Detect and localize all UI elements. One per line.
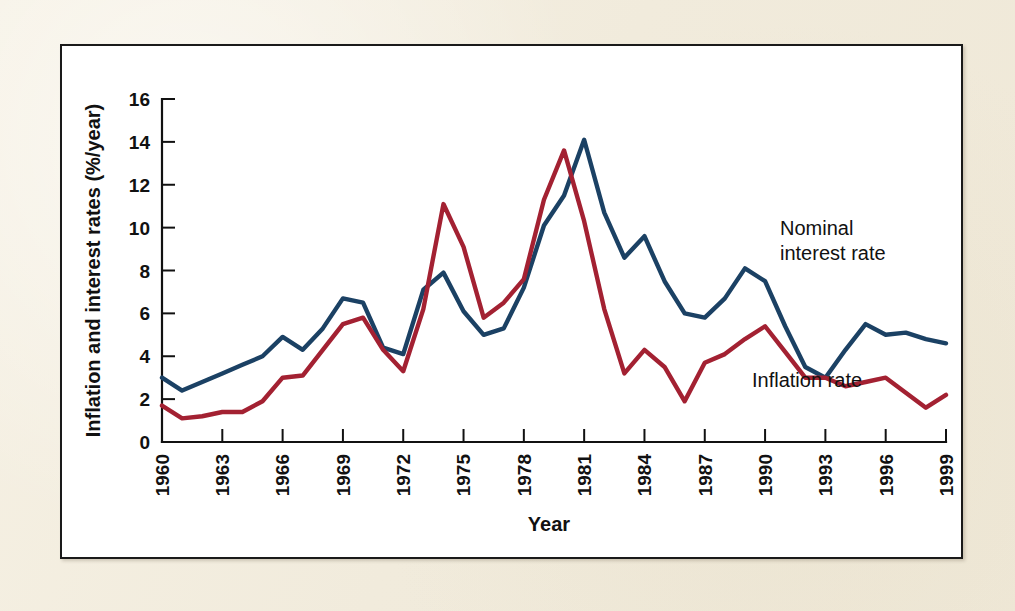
y-tick-label: 6 xyxy=(139,303,150,324)
x-tick-label: 1975 xyxy=(453,454,474,497)
x-tick-label: 1987 xyxy=(695,454,716,496)
y-axis-title: Inflation and interest rates (%/year) xyxy=(82,104,104,437)
y-tick-label: 16 xyxy=(129,89,150,110)
y-tick-label: 10 xyxy=(129,218,150,239)
series-annotations-group: Nominal interest rate Inflation rate xyxy=(752,217,886,391)
y-tick-label: 14 xyxy=(129,132,151,153)
x-axis-ticks-group: 1960196319661969197219751978198119841987… xyxy=(152,429,957,496)
inflation-rate-label: Inflation rate xyxy=(752,369,862,391)
chart-svg: 0246810121416 19601963196619691972197519… xyxy=(62,46,961,557)
y-tick-label: 0 xyxy=(139,432,150,453)
y-tick-label: 8 xyxy=(139,261,150,282)
x-tick-label: 1960 xyxy=(152,454,173,496)
x-tick-label: 1999 xyxy=(936,454,957,496)
x-tick-label: 1972 xyxy=(393,454,414,496)
nominal-interest-rate-label-line1: Nominal xyxy=(780,217,853,239)
y-axis-ticks-group: 0246810121416 xyxy=(129,89,175,453)
y-tick-label: 4 xyxy=(139,346,150,367)
y-tick-label: 2 xyxy=(139,389,150,410)
nominal-interest-rate-label-line2: interest rate xyxy=(780,242,886,264)
y-tick-label: 12 xyxy=(129,175,150,196)
x-tick-label: 1978 xyxy=(514,454,535,496)
x-axis-title: Year xyxy=(528,513,570,535)
x-tick-label: 1993 xyxy=(815,454,836,496)
x-tick-label: 1984 xyxy=(634,454,655,497)
x-tick-label: 1981 xyxy=(574,454,595,497)
x-tick-label: 1969 xyxy=(333,454,354,496)
x-tick-label: 1966 xyxy=(272,454,293,496)
figure-root: 0246810121416 19601963196619691972197519… xyxy=(0,0,1015,611)
x-tick-label: 1963 xyxy=(212,454,233,496)
x-tick-label: 1990 xyxy=(755,454,776,496)
chart-panel: 0246810121416 19601963196619691972197519… xyxy=(60,44,963,559)
x-tick-label: 1996 xyxy=(876,454,897,496)
